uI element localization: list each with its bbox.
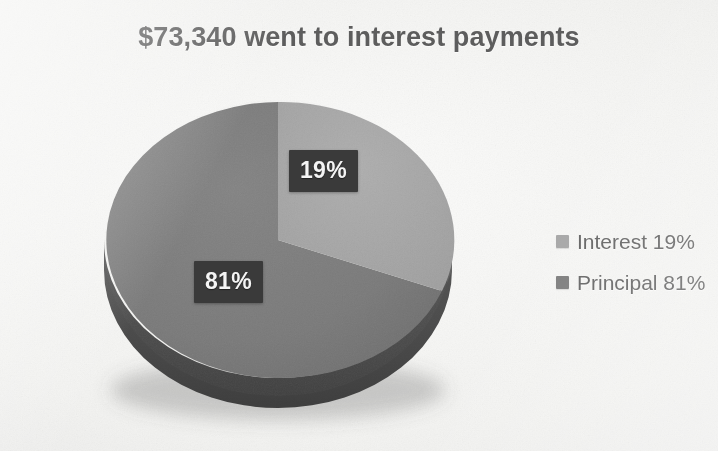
legend-item-interest: Interest 19% [556,221,705,262]
legend-swatch-interest [556,235,569,248]
pie-grain-overlay [104,100,452,396]
legend-item-principal: Principal 81% [556,262,705,303]
data-label-interest: 19% [289,150,358,192]
legend-label-principal: Principal 81% [577,271,705,295]
legend-swatch-principal [556,276,569,289]
legend-label-interest: Interest 19% [577,230,695,254]
chart-image: $73,340 went to interest payments 19% 81… [0,0,718,451]
chart-legend: Interest 19% Principal 81% [556,221,705,303]
data-label-principal: 81% [194,261,263,303]
chart-title: $73,340 went to interest payments [0,22,718,53]
